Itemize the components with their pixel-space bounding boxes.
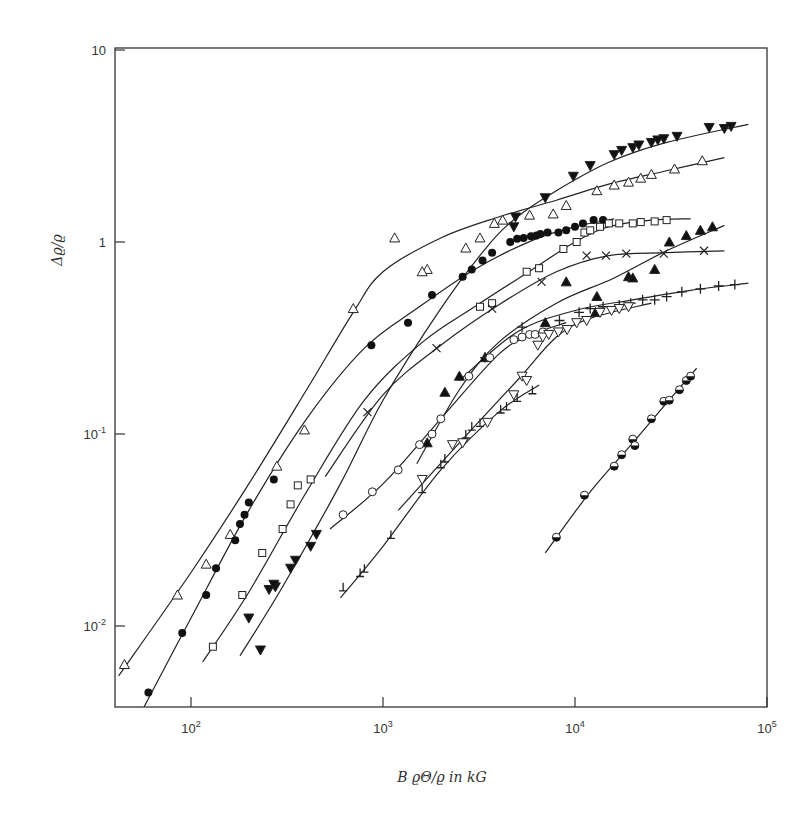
y-axis-ticks: 10-210-1110 bbox=[84, 43, 125, 634]
data-point bbox=[390, 233, 400, 242]
data-point bbox=[433, 344, 441, 352]
data-point bbox=[488, 249, 496, 257]
chart-canvas: 102103104105 10-210-1110 B ϱΘ/ϱ in kG Δϱ… bbox=[0, 0, 811, 823]
data-point bbox=[605, 220, 612, 227]
data-point bbox=[294, 482, 301, 489]
data-point bbox=[339, 511, 347, 519]
data-point bbox=[287, 501, 294, 508]
data-point bbox=[572, 319, 582, 328]
data-point bbox=[307, 476, 314, 483]
data-point bbox=[583, 252, 591, 260]
data-point bbox=[454, 371, 464, 380]
data-point bbox=[579, 219, 587, 227]
x-tick-label: 105 bbox=[757, 719, 776, 736]
data-point bbox=[241, 511, 249, 519]
data-point bbox=[286, 564, 296, 573]
data-point bbox=[704, 123, 714, 132]
data-point bbox=[540, 318, 550, 327]
data-point bbox=[695, 225, 705, 234]
data-point bbox=[119, 660, 129, 669]
data-point bbox=[695, 284, 705, 294]
fit-curve-filled-circle bbox=[144, 219, 614, 707]
data-point bbox=[272, 461, 282, 470]
fit-curve-filled-triangle-up bbox=[417, 225, 725, 463]
data-point bbox=[536, 230, 544, 238]
data-point bbox=[479, 257, 487, 265]
data-point bbox=[348, 304, 358, 313]
data-point bbox=[707, 222, 717, 231]
y-axis-title: Δϱ/ϱ bbox=[49, 234, 65, 267]
y-tick-label: 10 bbox=[92, 43, 106, 58]
data-point bbox=[144, 689, 152, 697]
data-point bbox=[231, 536, 239, 544]
data-point bbox=[587, 227, 594, 234]
data-point bbox=[518, 333, 526, 341]
x-tick-label: 104 bbox=[565, 719, 584, 736]
data-point bbox=[510, 336, 518, 344]
data-point bbox=[520, 234, 528, 242]
data-point bbox=[459, 273, 467, 281]
y-tick-label: 10-2 bbox=[84, 617, 106, 634]
data-point bbox=[568, 172, 578, 181]
fit-curve-open-circle bbox=[330, 323, 566, 529]
data-point bbox=[531, 330, 539, 338]
data-point bbox=[533, 341, 543, 350]
x-tick-label: 103 bbox=[373, 719, 392, 736]
data-point bbox=[523, 268, 530, 275]
data-point bbox=[447, 441, 457, 450]
data-point bbox=[236, 520, 244, 528]
data-point bbox=[468, 265, 476, 273]
plot-frame bbox=[115, 48, 767, 707]
data-point bbox=[672, 132, 682, 141]
data-point bbox=[462, 430, 470, 438]
data-point bbox=[255, 646, 265, 655]
data-point bbox=[306, 542, 316, 551]
data-point bbox=[525, 210, 535, 219]
data-point bbox=[573, 239, 580, 246]
series-filled-circle bbox=[144, 216, 607, 696]
data-point bbox=[178, 629, 186, 637]
data-point bbox=[416, 441, 424, 449]
data-point bbox=[616, 220, 623, 227]
data-point bbox=[202, 591, 210, 599]
data-point bbox=[637, 219, 644, 226]
data-point bbox=[562, 326, 572, 335]
data-point bbox=[279, 526, 286, 533]
data-point bbox=[522, 376, 532, 385]
data-point bbox=[339, 583, 347, 591]
series-filled-triangle-up bbox=[422, 222, 717, 447]
data-point bbox=[697, 156, 707, 165]
y-tick-label: 10-1 bbox=[84, 425, 106, 442]
data-point bbox=[560, 245, 567, 252]
data-point bbox=[561, 277, 571, 286]
data-point bbox=[536, 265, 543, 272]
data-point bbox=[418, 485, 426, 493]
x-axis-ticks: 102103104105 bbox=[181, 697, 776, 736]
data-point bbox=[368, 488, 376, 496]
data-point bbox=[244, 614, 254, 623]
data-point bbox=[544, 229, 552, 237]
series-half-filled-circle bbox=[552, 372, 694, 541]
data-point bbox=[172, 590, 182, 599]
data-point bbox=[677, 287, 687, 297]
data-point bbox=[259, 549, 266, 556]
fit-curve-half-filled-circle bbox=[545, 368, 696, 553]
y-tick-label: 1 bbox=[99, 235, 106, 250]
fit-curve-open-triangle-up bbox=[119, 158, 725, 676]
data-point bbox=[201, 559, 211, 568]
data-point bbox=[651, 218, 658, 225]
data-point bbox=[428, 430, 436, 438]
data-point bbox=[486, 354, 494, 362]
data-point bbox=[428, 291, 436, 299]
data-point bbox=[465, 372, 473, 380]
data-point bbox=[461, 243, 471, 252]
data-point bbox=[592, 292, 602, 301]
data-point bbox=[548, 209, 558, 218]
x-axis-title: B ϱΘ/ϱ in kG bbox=[396, 769, 486, 785]
data-point bbox=[571, 223, 579, 231]
data-point bbox=[561, 200, 571, 209]
series-filled-triangle-down bbox=[244, 122, 736, 655]
data-point bbox=[497, 405, 505, 413]
data-point bbox=[394, 466, 402, 474]
data-point bbox=[245, 498, 253, 506]
